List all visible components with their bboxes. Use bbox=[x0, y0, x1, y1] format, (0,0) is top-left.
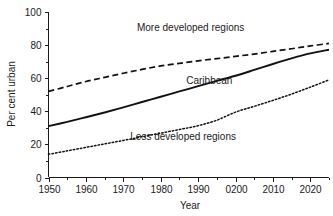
x-tick-label: 1950 bbox=[38, 184, 61, 195]
series-labels-group: More developed regionsCaribbeanLess deve… bbox=[130, 22, 244, 141]
series-label-2: Less developed regions bbox=[130, 131, 236, 142]
y-tick-label: 0 bbox=[36, 173, 42, 184]
x-tick-label: 1970 bbox=[112, 184, 135, 195]
x-tick-label: 2010 bbox=[262, 184, 285, 195]
x-tick-label: 1960 bbox=[75, 184, 98, 195]
y-tick-label: 40 bbox=[30, 106, 42, 117]
y-tick-label: 80 bbox=[30, 40, 42, 51]
series-line-2 bbox=[49, 80, 330, 154]
x-axis-group: 19501960197019801990020020102020 Year bbox=[38, 178, 329, 212]
urbanization-line-chart: 020406080100 Per cent urban 195019601970… bbox=[0, 0, 333, 216]
y-tick-label: 20 bbox=[30, 139, 42, 150]
x-tick-label: 1990 bbox=[187, 184, 210, 195]
x-tick-label: 2020 bbox=[299, 184, 322, 195]
x-tick-label: 1980 bbox=[150, 184, 173, 195]
x-axis-tick-labels: 19501960197019801990020020102020 bbox=[38, 184, 322, 195]
y-axis-title: Per cent urban bbox=[6, 61, 17, 127]
y-tick-label: 60 bbox=[30, 73, 42, 84]
y-axis-tick-labels: 020406080100 bbox=[25, 7, 42, 184]
series-label-1: Caribbean bbox=[186, 75, 232, 86]
y-tick-label: 100 bbox=[25, 7, 42, 18]
x-tick-label: 0200 bbox=[225, 184, 248, 195]
chart-canvas: 020406080100 Per cent urban 195019601970… bbox=[0, 0, 333, 216]
series-label-0: More developed regions bbox=[137, 22, 244, 33]
x-axis-title: Year bbox=[180, 200, 201, 211]
y-axis-group: 020406080100 Per cent urban bbox=[6, 7, 49, 184]
